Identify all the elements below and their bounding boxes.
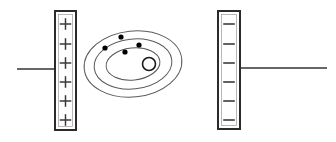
middle-shell-orbit [92,35,175,93]
electron-4 [122,49,127,54]
nucleus [143,58,156,71]
electron-3 [102,45,107,50]
diagram-canvas [0,0,336,142]
atom [81,26,185,102]
positive-plate [55,11,76,130]
electron-1 [118,34,123,39]
physics-diagram [0,0,336,142]
electron-2 [136,42,141,47]
negative-plate [218,11,240,129]
outer-shell-orbit [81,26,185,102]
